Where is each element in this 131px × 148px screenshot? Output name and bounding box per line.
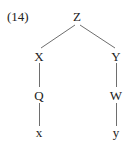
edge-z-x	[41, 25, 75, 48]
node-x: X	[34, 50, 43, 63]
node-z: Z	[73, 10, 81, 23]
node-y: Y	[111, 50, 120, 63]
node-q: Q	[34, 89, 43, 102]
edge-z-y	[80, 25, 115, 48]
node-w: W	[110, 89, 122, 102]
example-number: (14)	[7, 10, 29, 23]
leaf-x: x	[36, 126, 43, 139]
leaf-y: y	[113, 126, 120, 139]
